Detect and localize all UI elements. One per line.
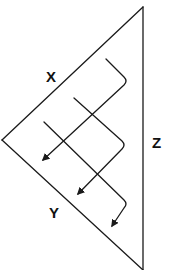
label-x: X [46,68,56,85]
side-x-line [2,7,143,140]
side-y-line [2,140,143,270]
arrow-path-2 [74,98,124,194]
label-y: Y [49,204,59,221]
label-z: Z [152,134,161,151]
triangle-diagram: X Z Y [0,0,175,270]
